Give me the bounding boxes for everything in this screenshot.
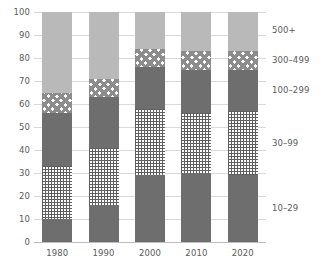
- x-tick-label: 2000: [139, 248, 161, 258]
- stacked-bar-chart: 0102030405060708090100 19801990200020102…: [0, 0, 324, 266]
- y-tick-label: 40: [4, 146, 30, 155]
- bar-segment-500+[interactable]: [89, 12, 119, 79]
- bar-group[interactable]: [42, 12, 72, 242]
- legend-label: 500+: [272, 26, 296, 35]
- x-tick-label: 1990: [93, 248, 115, 258]
- x-axis: 19801990200020102020: [34, 246, 266, 262]
- bar-group[interactable]: [181, 12, 211, 242]
- y-tick-label: 60: [4, 100, 30, 109]
- bar-segment-300-499[interactable]: [42, 93, 72, 114]
- x-tick-label: 1980: [46, 248, 68, 258]
- bar-segment-30-99[interactable]: [228, 111, 258, 175]
- y-tick-label: 70: [4, 77, 30, 86]
- bar-segment-30-99[interactable]: [89, 148, 119, 206]
- bar-segment-100-299[interactable]: [228, 70, 258, 111]
- bar-segment-10-29[interactable]: [135, 175, 165, 242]
- y-tick-label: 50: [4, 123, 30, 132]
- bar-segment-500+[interactable]: [181, 12, 211, 51]
- y-tick-label: 100: [4, 8, 30, 17]
- bar-segment-10-29[interactable]: [42, 219, 72, 242]
- bar-segment-10-29[interactable]: [89, 205, 119, 242]
- x-tick-label: 2020: [232, 248, 254, 258]
- bar-segment-500+[interactable]: [228, 12, 258, 51]
- chart-legend: 500+300–499100–29930–9910–29: [272, 0, 324, 266]
- y-tick-label: 10: [4, 215, 30, 224]
- bar-segment-300-499[interactable]: [89, 79, 119, 97]
- bar-segment-30-99[interactable]: [135, 109, 165, 176]
- bar-group[interactable]: [89, 12, 119, 242]
- y-tick-label: 80: [4, 54, 30, 63]
- legend-label: 10–29: [272, 204, 298, 213]
- y-tick-label: 0: [4, 238, 30, 247]
- bar-group[interactable]: [228, 12, 258, 242]
- bar-segment-100-299[interactable]: [42, 113, 72, 166]
- legend-label: 100–299: [272, 86, 309, 95]
- bar-segment-300-499[interactable]: [228, 51, 258, 69]
- bar-group[interactable]: [135, 12, 165, 242]
- plot-area: [34, 12, 266, 242]
- bar-segment-10-29[interactable]: [181, 173, 211, 242]
- legend-label: 300–499: [272, 56, 309, 65]
- bar-segment-30-99[interactable]: [42, 166, 72, 219]
- legend-label: 30–99: [272, 139, 298, 148]
- bar-segment-500+[interactable]: [135, 12, 165, 49]
- y-tick-label: 20: [4, 192, 30, 201]
- bar-segment-30-99[interactable]: [181, 113, 211, 173]
- y-axis: 0102030405060708090100: [0, 0, 30, 266]
- bar-segment-100-299[interactable]: [89, 97, 119, 148]
- axis-baseline: [34, 242, 266, 243]
- bar-segment-10-29[interactable]: [228, 175, 258, 242]
- bar-segment-300-499[interactable]: [135, 49, 165, 67]
- bar-segment-100-299[interactable]: [181, 70, 211, 114]
- bar-segment-100-299[interactable]: [135, 67, 165, 108]
- x-tick-label: 2010: [185, 248, 207, 258]
- bar-segment-500+[interactable]: [42, 12, 72, 93]
- y-tick-label: 90: [4, 31, 30, 40]
- y-tick-label: 30: [4, 169, 30, 178]
- bar-segment-300-499[interactable]: [181, 51, 211, 69]
